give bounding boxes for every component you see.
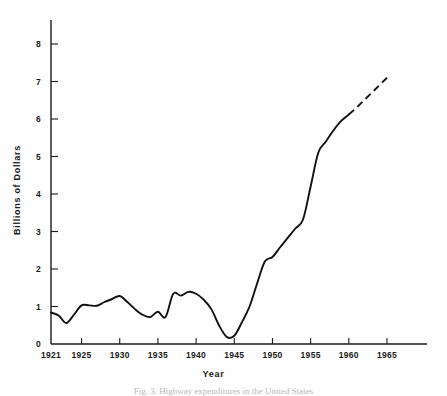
axes	[51, 20, 427, 344]
y-tick-label: 1	[36, 302, 41, 312]
x-tick-label: 1925	[71, 350, 91, 360]
y-tick-label: 7	[36, 77, 41, 87]
y-tick-label: 5	[36, 152, 41, 162]
x-tick-label: 1960	[339, 350, 359, 360]
y-axis-title: Billions of Dollars	[12, 130, 22, 250]
y-axis-ticks: 012345678	[36, 39, 58, 349]
y-tick-label: 6	[36, 114, 41, 124]
figure-caption: Fig. 3. Highway expenditures in the Unit…	[0, 386, 447, 396]
x-tick-label: 1935	[148, 350, 168, 360]
x-tick-label: 1955	[301, 350, 321, 360]
y-tick-label: 2	[36, 264, 41, 274]
data-series-group	[51, 76, 391, 338]
y-tick-label: 4	[36, 189, 41, 199]
y-tick-label: 3	[36, 227, 41, 237]
x-axis-title: Year	[0, 369, 437, 379]
x-tick-label: 1950	[262, 350, 282, 360]
series-line-projection	[349, 76, 391, 115]
x-tick-label: 1921	[41, 350, 61, 360]
x-tick-label: 1965	[377, 350, 397, 360]
series-line-expenditures	[51, 115, 349, 338]
x-axis-ticks: 1921192519301935194019451950195519601965	[41, 338, 397, 360]
y-tick-label: 8	[36, 39, 41, 49]
x-tick-label: 1940	[186, 350, 206, 360]
x-tick-label: 1930	[110, 350, 130, 360]
x-tick-label: 1945	[224, 350, 244, 360]
y-tick-label: 0	[36, 339, 41, 349]
